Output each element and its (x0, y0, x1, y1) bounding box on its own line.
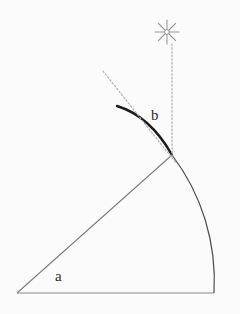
star-icon (155, 20, 179, 44)
angle-label-b: b (151, 107, 159, 123)
geometry-diagram: a b (0, 0, 240, 314)
sector-arc (172, 155, 214, 293)
diagram-canvas: a b (0, 0, 240, 314)
tangent-dotted-line (103, 71, 176, 163)
radius-line (17, 155, 172, 293)
angle-label-a: a (55, 268, 62, 284)
